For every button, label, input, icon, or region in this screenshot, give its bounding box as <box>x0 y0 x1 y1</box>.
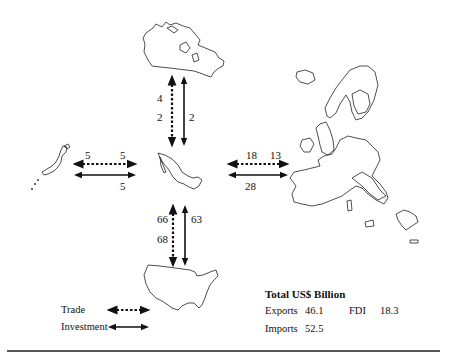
eu-investment-value: 28 <box>245 180 256 192</box>
eu-trade-value-2: 13 <box>270 149 281 161</box>
japan-map <box>31 144 70 190</box>
totals-title: Total US$ Billion <box>265 288 345 300</box>
legend-trade-label: Trade <box>61 304 85 316</box>
legend-investment-label: Investment <box>61 321 108 333</box>
europe-map <box>290 66 418 243</box>
canada-trade-value-2: 2 <box>157 111 163 123</box>
bottom-divider <box>7 350 440 352</box>
eu-trade-value-1: 18 <box>246 149 257 161</box>
canada-map <box>143 22 224 77</box>
usa-trade-value-1: 66 <box>157 213 168 225</box>
usa-investment-value: 63 <box>191 213 202 225</box>
mexico-map <box>158 153 202 189</box>
exports-label: Exports <box>265 305 298 316</box>
japan-trade-value-2: 5 <box>120 149 126 161</box>
japan-trade-value-1: 5 <box>85 149 91 161</box>
imports-label: Imports <box>265 323 298 334</box>
imports-value: 52.5 <box>305 323 323 334</box>
canada-investment-value: 2 <box>189 111 195 123</box>
exports-value: 46.1 <box>305 305 323 316</box>
japan-investment-value: 5 <box>120 180 126 192</box>
usa-trade-value-2: 68 <box>157 233 168 245</box>
usa-map <box>144 265 218 310</box>
canada-trade-value-1: 4 <box>157 92 163 104</box>
fdi-value: 18.3 <box>380 305 398 316</box>
fdi-label: FDI <box>349 305 366 316</box>
